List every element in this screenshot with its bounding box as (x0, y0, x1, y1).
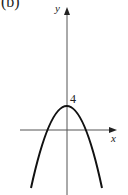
x-axis-label: x (111, 132, 116, 144)
y-axis-arrow-icon (64, 7, 70, 15)
parabola-graph (0, 0, 128, 195)
vertex-value-label: 4 (70, 92, 76, 107)
y-axis-label: y (55, 2, 60, 14)
